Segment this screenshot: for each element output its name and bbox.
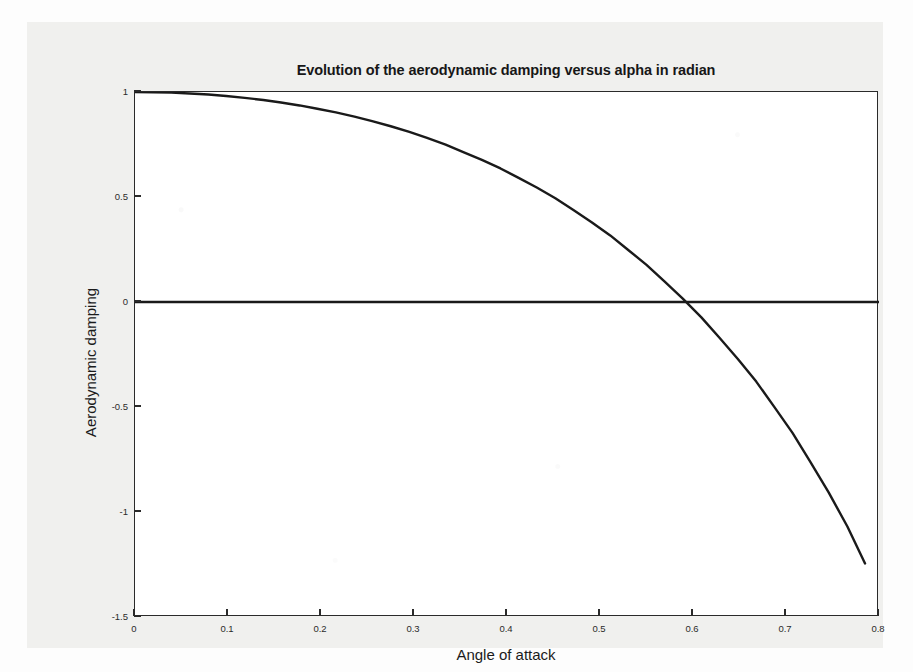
x-tick-label: 0.6 [685,623,698,634]
x-tick-label: 0 [131,623,136,634]
x-tick-mark [412,609,413,616]
figure-canvas: Evolution of the aerodynamic damping ver… [27,22,883,648]
y-tick-label: -0.5 [100,401,128,412]
x-tick-mark [598,609,599,616]
x-axis-label: Angle of attack [134,646,878,663]
chart-title: Evolution of the aerodynamic damping ver… [134,62,878,78]
plot-area [134,91,878,616]
y-tick-label: 0.5 [100,191,128,202]
y-axis-label: Aerodynamic damping [82,248,99,478]
chart-plot-svg [135,92,879,617]
y-tick-label: 1 [100,86,128,97]
x-tick-label: 0.3 [406,623,419,634]
x-tick-mark [505,609,506,616]
y-tick-mark [134,510,141,511]
x-tick-label: 0.1 [220,623,233,634]
x-tick-mark [877,609,878,616]
y-tick-mark [134,615,141,616]
y-tick-label: -1.5 [100,611,128,622]
y-tick-mark [134,405,141,406]
y-tick-mark [134,300,141,301]
x-tick-label: 0.7 [778,623,791,634]
y-tick-mark [134,90,141,91]
x-tick-mark [784,609,785,616]
page-background: Evolution of the aerodynamic damping ver… [0,0,913,672]
x-tick-label: 0.8 [871,623,884,634]
damping-curve [135,92,865,563]
x-tick-label: 0.5 [592,623,605,634]
x-tick-mark [226,609,227,616]
y-tick-mark [134,195,141,196]
x-tick-label: 0.4 [499,623,512,634]
y-tick-label: 0 [100,296,128,307]
x-tick-mark [319,609,320,616]
x-tick-mark [691,609,692,616]
x-tick-label: 0.2 [313,623,326,634]
y-tick-label: -1 [100,506,128,517]
